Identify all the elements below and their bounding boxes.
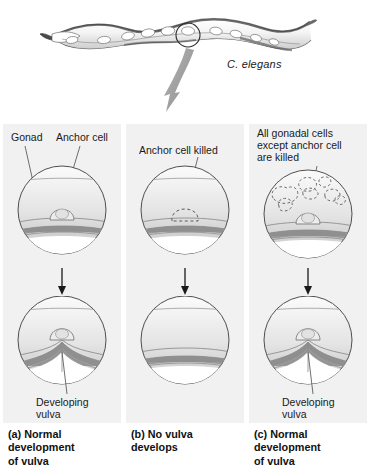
panel-c-top-diagram <box>249 124 367 274</box>
captions-row: (a) Normal development of vulva (b) No v… <box>0 428 370 471</box>
panel-c-developing-vulva-label: Developing vulva <box>282 396 335 420</box>
c-elegans-worm-icon <box>0 0 370 122</box>
pointer-arrow-icon <box>164 48 194 112</box>
panel-a-top-diagram <box>3 124 121 274</box>
panel-b-top-diagram <box>126 124 244 274</box>
panel-c-bottom-diagram <box>249 296 367 401</box>
species-label: C. elegans <box>227 58 282 70</box>
panel-c[interactable]: All gonadal cells except anchor cell are… <box>249 124 367 423</box>
panel-c-down-arrow <box>249 266 367 298</box>
worm-illustration-area: C. elegans <box>0 0 370 122</box>
panel-a-bottom-diagram <box>3 296 121 401</box>
panel-b-down-arrow <box>126 266 244 298</box>
panel-a[interactable]: Gonad Anchor cell <box>3 124 121 423</box>
caption-c: (c) Normal development of vulva <box>254 428 321 468</box>
panel-a-down-arrow <box>3 266 121 298</box>
panel-b[interactable]: Anchor cell killed <box>126 124 244 423</box>
caption-b: (b) No vulva develops <box>131 428 193 455</box>
figure-root: C. elegans Gonad Anchor cell <box>0 0 370 471</box>
panel-a-developing-vulva-label: Developing vulva <box>36 396 89 420</box>
panel-b-bottom-diagram <box>126 296 244 401</box>
caption-a: (a) Normal development of vulva <box>8 428 75 468</box>
panels-container: Gonad Anchor cell <box>0 124 370 424</box>
